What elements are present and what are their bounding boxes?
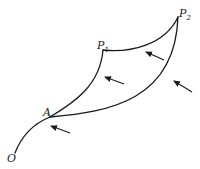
diagram-canvas: O A P1 P2 <box>0 0 200 169</box>
arrow-icon <box>51 126 70 133</box>
path-p1-to-p2 <box>103 17 178 51</box>
label-o: O <box>7 152 16 165</box>
label-a: A <box>42 106 51 119</box>
path-o-to-a <box>15 117 50 153</box>
arrow-icon <box>146 52 164 60</box>
label-p1: P1 <box>96 39 109 54</box>
label-p2: P2 <box>178 7 191 22</box>
arrow-icon <box>105 77 124 84</box>
arrow-icon <box>174 81 192 92</box>
path-a-to-p1 <box>50 50 103 117</box>
path-a-to-p2 <box>50 17 178 117</box>
